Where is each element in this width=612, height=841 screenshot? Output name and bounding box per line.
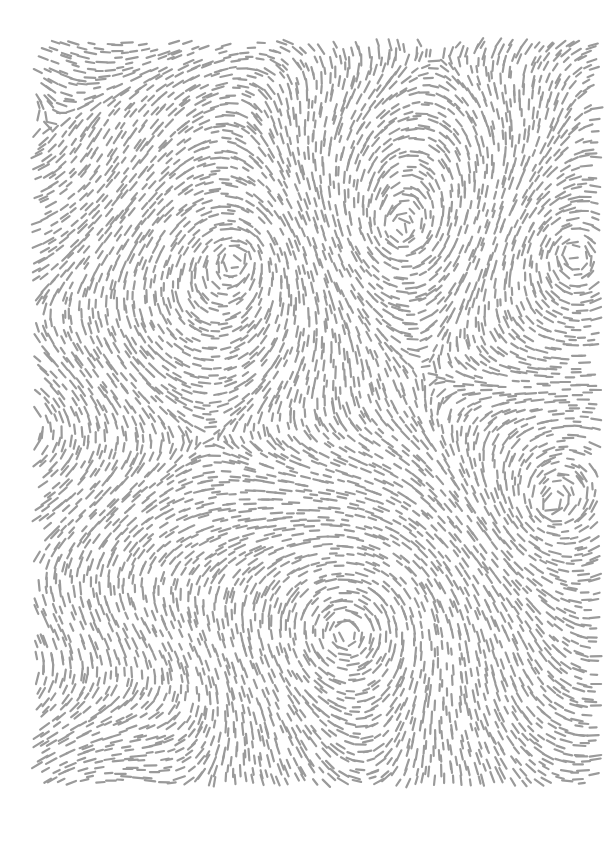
dash xyxy=(236,747,237,757)
dash xyxy=(459,644,460,650)
dash xyxy=(547,251,548,258)
dash xyxy=(41,432,42,439)
dash xyxy=(559,447,567,448)
dash xyxy=(93,589,94,597)
dash xyxy=(173,593,174,603)
dash xyxy=(493,454,494,460)
dash xyxy=(98,312,99,319)
dash xyxy=(217,494,227,495)
dash xyxy=(87,83,98,84)
dash xyxy=(449,713,450,722)
dash xyxy=(295,316,296,324)
dash xyxy=(408,339,418,340)
dash xyxy=(204,465,212,466)
dash xyxy=(464,695,465,704)
dash xyxy=(524,494,525,503)
dash xyxy=(210,422,217,423)
dash xyxy=(555,396,567,397)
dash xyxy=(493,61,494,71)
dash xyxy=(451,185,452,192)
dash xyxy=(460,330,461,337)
dash xyxy=(95,767,104,768)
dash xyxy=(214,368,221,369)
dash xyxy=(141,578,142,586)
dash xyxy=(385,216,386,226)
dash xyxy=(415,139,424,140)
dash xyxy=(303,542,310,543)
dash xyxy=(107,309,108,315)
dash xyxy=(316,339,317,350)
dash xyxy=(105,749,112,751)
dash xyxy=(145,296,146,303)
dash xyxy=(571,537,577,539)
dash xyxy=(570,320,579,321)
dash xyxy=(276,264,277,272)
dash xyxy=(312,101,313,108)
dash xyxy=(287,262,289,269)
dash xyxy=(97,423,99,430)
dash xyxy=(271,630,272,639)
dash xyxy=(90,317,91,324)
dash xyxy=(294,525,304,526)
dash xyxy=(226,722,227,733)
dash xyxy=(101,52,110,53)
dash xyxy=(424,729,425,738)
dash xyxy=(357,540,363,541)
dash xyxy=(329,507,339,508)
dash xyxy=(233,525,239,526)
dash xyxy=(572,583,580,584)
dash xyxy=(428,678,430,690)
dash xyxy=(342,520,348,521)
dash xyxy=(240,53,248,54)
dash xyxy=(197,606,198,614)
dash xyxy=(280,414,281,421)
dash xyxy=(297,279,298,289)
dash xyxy=(244,254,245,264)
dash xyxy=(97,62,107,63)
dash xyxy=(474,181,475,192)
dash xyxy=(310,530,319,531)
dash xyxy=(451,694,452,705)
dash xyxy=(214,126,225,127)
dash xyxy=(207,269,208,280)
dash xyxy=(529,126,530,133)
dash xyxy=(159,770,169,771)
dash xyxy=(45,321,46,328)
dash xyxy=(88,69,95,70)
dash xyxy=(368,200,369,207)
dash xyxy=(422,756,423,767)
dash xyxy=(503,131,504,140)
dash xyxy=(583,699,593,700)
dash xyxy=(86,62,94,63)
dash xyxy=(565,543,576,544)
dash xyxy=(403,44,404,52)
dash xyxy=(425,405,426,411)
dash xyxy=(256,58,263,59)
dash xyxy=(304,398,305,407)
dash xyxy=(308,387,310,394)
dash xyxy=(347,691,354,692)
dash xyxy=(495,290,496,298)
dash xyxy=(124,299,125,310)
dash xyxy=(420,721,421,731)
dash xyxy=(347,352,348,363)
dash xyxy=(519,135,520,144)
dash xyxy=(511,120,512,130)
dash xyxy=(296,491,304,492)
dash xyxy=(503,462,504,472)
dash xyxy=(538,368,546,369)
dash xyxy=(144,778,152,779)
dash xyxy=(513,486,514,495)
dash xyxy=(477,668,479,676)
dash xyxy=(151,441,152,448)
dash xyxy=(104,430,105,441)
dash xyxy=(406,288,416,289)
dash xyxy=(488,385,498,386)
dash xyxy=(339,184,340,195)
dash xyxy=(482,185,483,194)
dash xyxy=(239,59,248,60)
dash xyxy=(244,481,250,482)
dash xyxy=(290,92,292,99)
dash xyxy=(326,381,327,387)
dash xyxy=(510,270,511,278)
